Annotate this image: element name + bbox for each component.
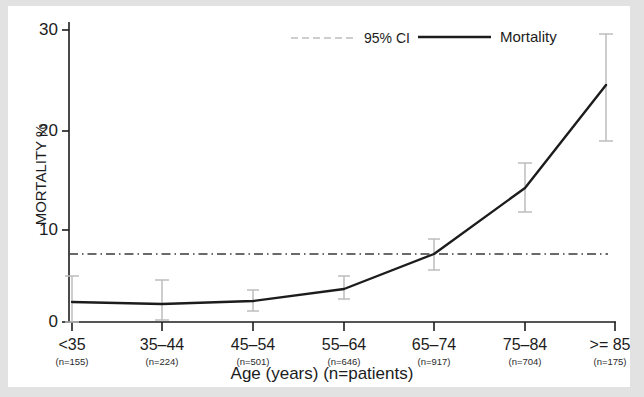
x-axis-ticks	[72, 322, 615, 331]
x-tick-label-4: 65–74	[412, 336, 457, 354]
x-tick-label-0: <35	[58, 336, 85, 354]
mortality-by-age-line-chart	[8, 6, 630, 387]
y-tick-label-0: 0	[8, 312, 58, 332]
x-tick-label-1: 35–44	[140, 336, 185, 354]
axes-spines	[69, 22, 616, 322]
x-tick-label-3: 55–64	[322, 336, 367, 354]
x-tick-label-5: 75–84	[503, 336, 548, 354]
ci-error-bar-6	[599, 34, 613, 141]
x-tick-label-2: 45–54	[231, 336, 276, 354]
legend-label-ci: 95% CI	[364, 30, 410, 46]
y-tick-label-30: 30	[8, 20, 58, 40]
mortality-line	[72, 85, 606, 304]
ci-error-bars	[65, 34, 613, 322]
chart-page: 30 20 10 0 MORTALITY % <35 (n=155) 35–44…	[8, 6, 630, 387]
figure-container: 30 20 10 0 MORTALITY % <35 (n=155) 35–44…	[0, 0, 644, 397]
y-axis-title: MORTALITY %	[32, 95, 49, 255]
x-tick-label-6: >= 85	[590, 336, 631, 354]
legend-label-mortality: Mortality	[500, 28, 557, 45]
ci-error-bar-1	[155, 280, 169, 320]
x-axis-title: Age (years) (n=patients)	[0, 364, 644, 384]
ci-error-bar-0	[65, 276, 79, 322]
y-axis-ticks	[62, 30, 69, 322]
